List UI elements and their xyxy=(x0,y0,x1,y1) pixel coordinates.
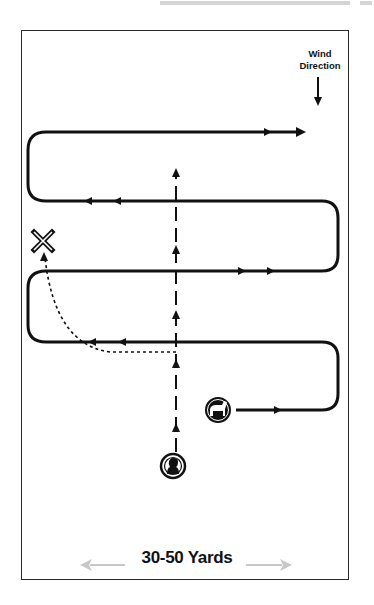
arrow-right-icon xyxy=(238,267,246,275)
arrow-right-icon xyxy=(274,406,282,414)
arrow-right-icon xyxy=(267,267,275,275)
arrow-right-icon xyxy=(296,127,306,137)
handler-head-icon xyxy=(161,454,185,478)
arrow-left-icon xyxy=(113,197,121,205)
wind-label-line1: Wind xyxy=(290,48,350,60)
arrow-left-icon xyxy=(88,338,96,346)
arrow-left-icon xyxy=(118,338,126,346)
x-mark-icon xyxy=(34,232,52,250)
wind-direction-label: Wind Direction xyxy=(290,48,350,72)
dog-quartering-path xyxy=(28,132,338,410)
arrow-left-icon xyxy=(84,197,92,205)
wind-label-line2: Direction xyxy=(290,60,350,72)
dog-icon xyxy=(205,397,231,423)
arrow-down-icon xyxy=(314,77,322,106)
field-width-label: 30-50 Yards xyxy=(142,548,233,567)
arrow-up-icon xyxy=(40,252,48,261)
arrow-right-icon xyxy=(264,128,272,136)
quartering-diagram xyxy=(0,0,374,605)
field-width-dimension: 30-50 Yards xyxy=(0,548,374,568)
